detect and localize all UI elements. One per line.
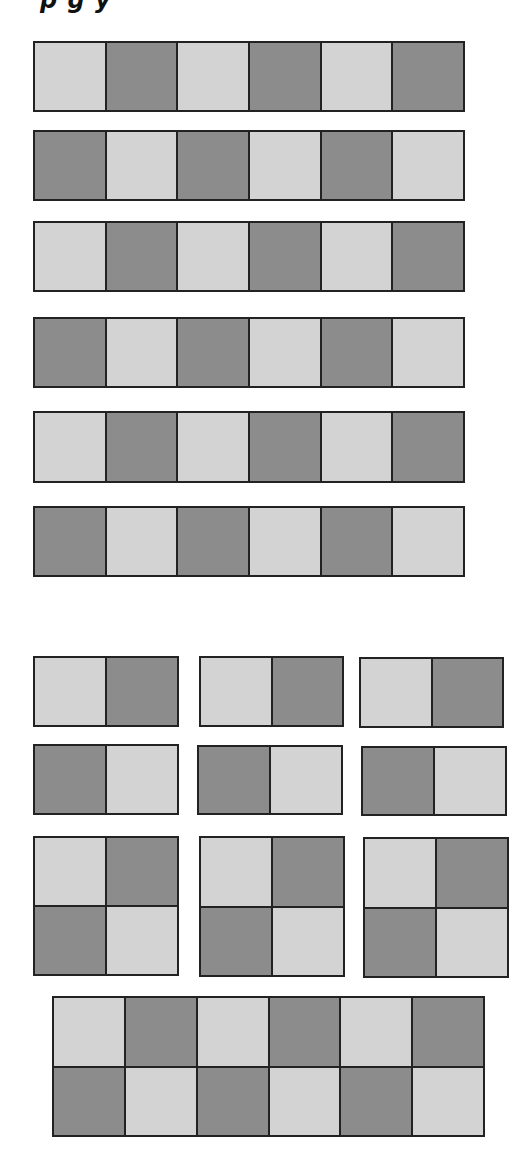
checker-piece-4 bbox=[33, 744, 179, 815]
light-square bbox=[437, 909, 507, 977]
dark-square bbox=[35, 508, 105, 575]
light-square bbox=[413, 1068, 483, 1136]
light-square bbox=[35, 43, 105, 110]
dark-square bbox=[199, 747, 269, 813]
dark-square bbox=[322, 132, 392, 199]
checker-strip-3 bbox=[33, 221, 465, 292]
checker-piece-6 bbox=[361, 746, 507, 816]
checker-strip-5 bbox=[33, 411, 465, 483]
checker-piece-2 bbox=[199, 656, 344, 727]
checker-strip-1 bbox=[33, 41, 465, 112]
checker-piece-3 bbox=[359, 657, 504, 728]
checker-strip-6 bbox=[33, 506, 465, 577]
dark-square bbox=[107, 838, 177, 905]
dark-square bbox=[363, 748, 433, 814]
light-square bbox=[393, 508, 463, 575]
dark-square bbox=[35, 907, 105, 974]
light-square bbox=[107, 132, 177, 199]
dark-square bbox=[198, 1068, 268, 1136]
light-square bbox=[322, 223, 392, 290]
dark-square bbox=[433, 659, 503, 726]
light-square bbox=[107, 508, 177, 575]
light-square bbox=[435, 748, 505, 814]
checker-piece-5 bbox=[197, 745, 343, 815]
light-square bbox=[322, 43, 392, 110]
dark-square bbox=[54, 1068, 124, 1136]
dark-square bbox=[250, 43, 320, 110]
dark-square bbox=[35, 132, 105, 199]
checker-strip-2 bbox=[33, 130, 465, 201]
light-square bbox=[365, 839, 435, 907]
dark-square bbox=[107, 223, 177, 290]
light-square bbox=[201, 658, 271, 725]
dark-square bbox=[270, 998, 340, 1066]
dark-square bbox=[322, 319, 392, 386]
dark-square bbox=[201, 908, 271, 976]
dark-square bbox=[393, 223, 463, 290]
light-square bbox=[271, 747, 341, 813]
light-square bbox=[250, 508, 320, 575]
dark-square bbox=[178, 508, 248, 575]
dark-square bbox=[322, 508, 392, 575]
dark-square bbox=[35, 319, 105, 386]
dark-square bbox=[35, 746, 105, 813]
dark-square bbox=[178, 319, 248, 386]
dark-square bbox=[107, 413, 177, 481]
light-square bbox=[250, 319, 320, 386]
light-square bbox=[35, 413, 105, 481]
dark-square bbox=[273, 838, 343, 906]
light-square bbox=[273, 908, 343, 976]
cut-off-heading: p g y bbox=[40, 0, 112, 14]
light-square bbox=[35, 223, 105, 290]
light-square bbox=[322, 413, 392, 481]
checker-strip-4 bbox=[33, 317, 465, 388]
dark-square bbox=[341, 1068, 411, 1136]
dark-square bbox=[273, 658, 343, 725]
light-square bbox=[178, 223, 248, 290]
light-square bbox=[393, 319, 463, 386]
light-square bbox=[178, 413, 248, 481]
dark-square bbox=[250, 413, 320, 481]
dark-square bbox=[250, 223, 320, 290]
checker-piece-9 bbox=[363, 837, 509, 978]
dark-square bbox=[107, 658, 177, 725]
light-square bbox=[35, 658, 105, 725]
light-square bbox=[35, 838, 105, 905]
light-square bbox=[107, 319, 177, 386]
light-square bbox=[270, 1068, 340, 1136]
dark-square bbox=[393, 413, 463, 481]
checker-piece-1 bbox=[33, 656, 179, 727]
light-square bbox=[178, 43, 248, 110]
light-square bbox=[341, 998, 411, 1066]
light-square bbox=[54, 998, 124, 1066]
light-square bbox=[107, 907, 177, 974]
dark-square bbox=[107, 43, 177, 110]
dark-square bbox=[437, 839, 507, 907]
light-square bbox=[126, 1068, 196, 1136]
checker-piece-7 bbox=[33, 836, 179, 976]
light-square bbox=[361, 659, 431, 726]
light-square bbox=[393, 132, 463, 199]
dark-square bbox=[393, 43, 463, 110]
light-square bbox=[201, 838, 271, 906]
light-square bbox=[107, 746, 177, 813]
checker-piece-8 bbox=[199, 836, 345, 977]
dark-square bbox=[178, 132, 248, 199]
light-square bbox=[250, 132, 320, 199]
dark-square bbox=[126, 998, 196, 1066]
checker-piece-10 bbox=[52, 996, 485, 1137]
dark-square bbox=[365, 909, 435, 977]
light-square bbox=[198, 998, 268, 1066]
dark-square bbox=[413, 998, 483, 1066]
